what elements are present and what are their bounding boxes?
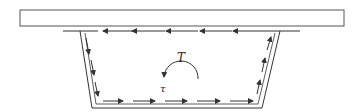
shear-arrows-left [86, 38, 98, 96]
torque-label: T [177, 51, 186, 65]
shear-label: τ [160, 83, 166, 94]
deck-slab [20, 10, 344, 26]
box-web-outer [80, 31, 280, 108]
box-web-inner [85, 33, 275, 104]
shear-arrows-right [257, 37, 271, 94]
torsion-diagram: T τ [0, 0, 355, 112]
